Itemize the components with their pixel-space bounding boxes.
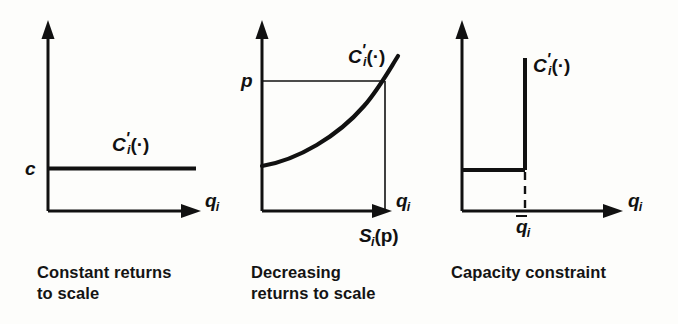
y-tick-label-p: p <box>241 71 253 90</box>
y-tick-label-c: c <box>25 159 36 178</box>
y-axis-capacity-constraint <box>456 20 469 211</box>
x-axis-label-qi: qi <box>396 191 410 213</box>
curve-label-marginal-cost: C'i(·) <box>348 42 385 69</box>
panel-decreasing-returns: C'i(·) p Si(p) qi Decreasing returns to … <box>226 0 440 324</box>
caption-capacity-constraint: Capacity constraint <box>451 262 678 283</box>
x-axis-capacity-constraint <box>462 204 623 218</box>
caption-constant-returns: Constant returns to scale <box>37 262 227 305</box>
y-axis-constant-returns <box>42 20 55 211</box>
x-axis-label-qi: qi <box>205 191 219 213</box>
figure-marginal-cost-panels: C'i(·) c qi Constant returns to scale <box>0 0 678 324</box>
caption-decreasing-returns: Decreasing returns to scale <box>251 262 451 305</box>
x-axis-label-qi: qi <box>628 191 642 213</box>
x-axis-decreasing-returns <box>262 204 392 218</box>
panel-capacity-constraint: C'i(·) qi qi Capacity constraint <box>440 0 678 324</box>
x-tick-label-capacity: qi <box>516 217 530 239</box>
curve-label-marginal-cost: C'i(·) <box>112 130 149 157</box>
x-axis-constant-returns <box>48 204 201 218</box>
marginal-cost-curve-decreasing <box>262 56 398 166</box>
y-axis-decreasing-returns <box>256 20 269 211</box>
x-tick-label-supply: Si(p) <box>359 226 399 248</box>
curve-label-marginal-cost: C'i(·) <box>533 51 570 78</box>
panel-constant-returns: C'i(·) c qi Constant returns to scale <box>0 0 226 324</box>
